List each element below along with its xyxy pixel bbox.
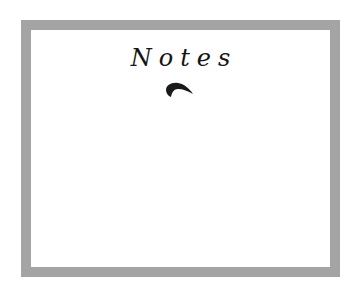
quill-icon — [164, 81, 194, 99]
notes-frame: Notes — [21, 20, 340, 277]
page-title: Notes — [31, 44, 330, 72]
